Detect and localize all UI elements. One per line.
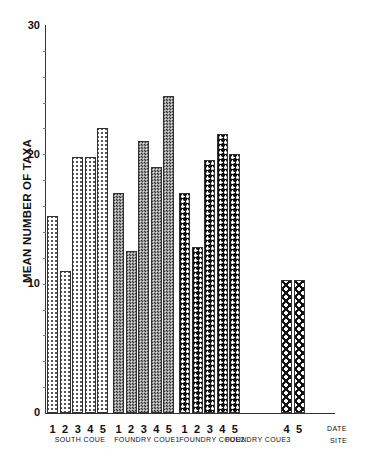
bar <box>151 167 162 413</box>
bar <box>138 141 149 413</box>
bar <box>113 193 124 413</box>
bar <box>97 128 108 413</box>
date-label: 4 <box>216 423 228 435</box>
date-label: 3 <box>72 423 84 435</box>
site-label: FOUNDRY COUE3 <box>218 436 298 443</box>
date-label: 5 <box>163 423 175 435</box>
bar-chart: MEAN NUMBER OF TAXA 0 10 20 30 12345SOUT… <box>0 0 367 456</box>
y-tick-10: 10 <box>10 277 40 289</box>
date-label: 1 <box>179 423 191 435</box>
y-minor-tick <box>43 180 46 181</box>
y-minor-tick <box>43 310 46 311</box>
y-minor-tick <box>43 232 46 233</box>
bar <box>204 160 215 413</box>
date-label: 1 <box>113 423 125 435</box>
date-label: 2 <box>125 423 137 435</box>
y-minor-tick <box>43 284 46 285</box>
x-axis <box>45 413 335 414</box>
bar <box>126 251 137 413</box>
y-minor-tick <box>43 361 46 362</box>
bar <box>192 247 203 413</box>
date-label: 3 <box>204 423 216 435</box>
bar <box>163 96 174 413</box>
bar <box>217 134 228 413</box>
date-label: 5 <box>97 423 109 435</box>
bar <box>281 280 292 413</box>
date-row-label: DATE <box>327 425 347 432</box>
y-minor-tick <box>43 335 46 336</box>
date-label: 4 <box>281 423 293 435</box>
y-tick-30: 30 <box>10 19 40 31</box>
date-label: 5 <box>293 423 305 435</box>
date-label: 3 <box>138 423 150 435</box>
site-row-label: SITE <box>330 437 347 444</box>
bar <box>72 157 83 413</box>
bar <box>179 193 190 413</box>
y-minor-tick <box>43 387 46 388</box>
y-minor-tick <box>43 206 46 207</box>
bar <box>85 157 96 413</box>
y-minor-tick <box>43 154 46 155</box>
date-label: 1 <box>47 423 59 435</box>
y-axis <box>45 25 46 414</box>
y-minor-tick <box>43 77 46 78</box>
date-label: 5 <box>229 423 241 435</box>
y-minor-tick <box>43 128 46 129</box>
y-minor-tick <box>43 258 46 259</box>
bar <box>294 280 305 413</box>
y-tick-0: 0 <box>10 406 40 418</box>
date-label: 4 <box>150 423 162 435</box>
y-tick-20: 20 <box>10 148 40 160</box>
y-minor-tick <box>43 51 46 52</box>
date-label: 2 <box>191 423 203 435</box>
y-minor-tick <box>43 103 46 104</box>
bar <box>47 216 58 413</box>
date-label: 4 <box>84 423 96 435</box>
bar <box>229 154 240 413</box>
bar <box>60 271 71 413</box>
date-label: 2 <box>59 423 71 435</box>
